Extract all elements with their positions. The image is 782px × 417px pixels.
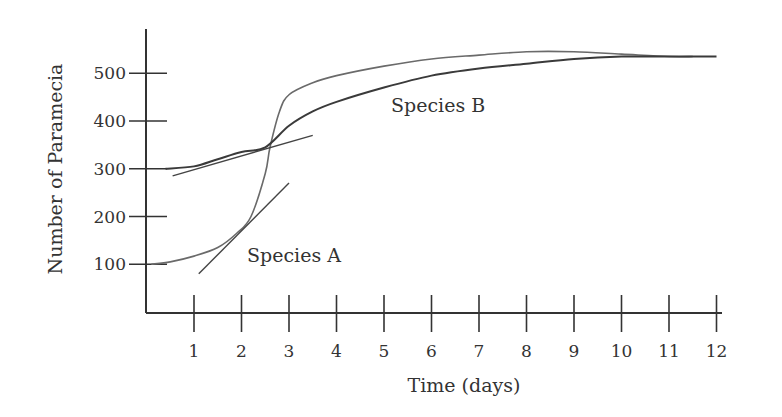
x-axis-title: Time (days)	[408, 374, 521, 396]
x-tick-label: 8	[521, 341, 532, 361]
x-tick-label: 11	[658, 341, 680, 361]
x-tick-label: 6	[426, 341, 437, 361]
x-tick-label: 3	[284, 341, 295, 361]
growth-chart: 100200300400500 123456789101112 Species …	[0, 0, 782, 417]
x-tick-label: 7	[474, 341, 485, 361]
x-tick-label: 10	[611, 341, 633, 361]
tangent-line-species-b	[173, 135, 313, 176]
x-tick-label: 5	[379, 341, 390, 361]
x-tick-label: 4	[331, 341, 342, 361]
x-tick-label: 9	[569, 341, 580, 361]
x-ticks: 123456789101112	[189, 295, 728, 361]
y-tick-label: 100	[94, 254, 126, 274]
label-species-b: Species B	[391, 94, 485, 116]
y-ticks: 100200300400500	[94, 63, 167, 274]
y-tick-label: 300	[94, 159, 126, 179]
y-tick-label: 400	[94, 111, 126, 131]
plot-area	[151, 51, 716, 273]
series-species-a-curve	[151, 51, 693, 264]
x-tick-label: 2	[236, 341, 247, 361]
x-tick-label: 12	[706, 341, 728, 361]
y-tick-label: 200	[94, 207, 126, 227]
y-axis-title: Number of Paramecia	[44, 64, 66, 275]
axes	[146, 29, 722, 313]
y-tick-label: 500	[94, 63, 126, 83]
label-species-a: Species A	[247, 244, 341, 266]
x-tick-label: 1	[189, 341, 200, 361]
